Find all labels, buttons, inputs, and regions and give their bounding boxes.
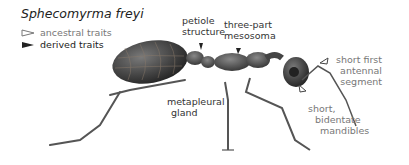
hind-leg xyxy=(50,80,185,145)
label-mesosoma-line2: mesosoma xyxy=(224,30,276,41)
label-antennal-line1: short first xyxy=(336,54,382,65)
label-mandibles-line1: short, xyxy=(308,103,369,114)
label-antennal-line3: segment xyxy=(336,76,382,87)
label-petiole: petiole structure xyxy=(182,15,225,37)
label-mandibles: short, bidentate mandibles xyxy=(308,103,369,136)
label-mandibles-line2: bidentate xyxy=(308,114,369,125)
antennal-ancestral-marker xyxy=(320,58,328,64)
label-metapleural-line1: metapleural xyxy=(167,96,225,107)
label-antennal-line2: antennal xyxy=(336,65,382,76)
label-mesosoma: three-part mesosoma xyxy=(224,19,276,41)
mesosoma-derived-marker xyxy=(236,48,241,54)
label-petiole-line2: structure xyxy=(182,26,225,37)
label-metapleural: metapleural gland xyxy=(167,96,225,118)
petiole-derived-marker xyxy=(199,43,203,50)
mandible-ancestral-marker xyxy=(299,85,306,92)
mesosoma xyxy=(214,53,250,71)
label-mandibles-line3: mandibles xyxy=(308,125,369,136)
label-petiole-line1: petiole xyxy=(182,15,225,26)
label-metapleural-line2: gland xyxy=(167,107,225,118)
label-antennal: short first antennal segment xyxy=(336,54,382,87)
label-mesosoma-line1: three-part xyxy=(224,19,276,30)
